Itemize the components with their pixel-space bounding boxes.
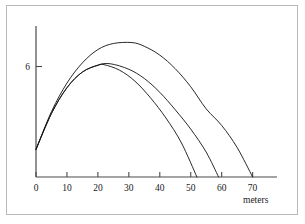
curve-trajectory-long — [36, 42, 253, 177]
x-tick-label-20: 20 — [93, 183, 103, 193]
y-axis-tick-labels: 6 — [25, 62, 30, 72]
curve-trajectory-medium — [36, 63, 219, 177]
x-tick-label-40: 40 — [155, 183, 165, 193]
x-axis-tick-labels: 010203040506070 — [34, 183, 258, 193]
projectile-trajectory-chart: 010203040506070 6 meters — [0, 0, 305, 224]
curve-trajectory-short — [36, 64, 197, 177]
y-tick-label-6: 6 — [25, 62, 30, 72]
trajectory-curves — [36, 42, 253, 177]
x-tick-label-10: 10 — [62, 183, 72, 193]
x-tick-label-50: 50 — [186, 183, 196, 193]
x-tick-label-30: 30 — [124, 183, 134, 193]
x-axis-ticks — [36, 172, 253, 177]
x-tick-label-70: 70 — [248, 183, 258, 193]
x-tick-label-60: 60 — [217, 183, 227, 193]
x-tick-label-0: 0 — [34, 183, 39, 193]
chart-canvas: 010203040506070 6 meters — [0, 0, 305, 224]
x-axis-title: meters — [243, 195, 269, 205]
